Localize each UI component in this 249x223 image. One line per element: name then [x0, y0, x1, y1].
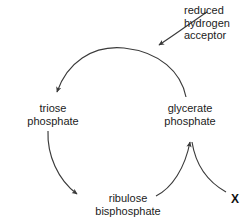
node-label-glycerate-phosphate: glycerate phosphate	[164, 102, 215, 127]
node-label-triose-phosphate: triose phosphate	[27, 102, 78, 127]
node-label-ribulose-bisphosphate: ribulose bisphosphate	[95, 192, 160, 217]
triose-phosphate-line-2: phosphate	[27, 115, 78, 128]
arrow-triose-to-ribulose	[48, 131, 77, 194]
triose-phosphate-line-1: triose	[27, 102, 78, 115]
calvin-cycle-diagram: reduced hydrogen acceptor triose phospha…	[0, 0, 249, 223]
arrow-glycerate-to-triose	[57, 48, 186, 97]
glycerate-phosphate-line-2: phosphate	[164, 115, 215, 128]
reduced-hydrogen-acceptor-line-2: hydrogen	[184, 17, 230, 30]
unknown-substance-marker-x: X	[231, 192, 239, 206]
ribulose-bisphosphate-line-2: bisphosphate	[95, 205, 160, 218]
ribulose-bisphosphate-line-1: ribulose	[95, 192, 160, 205]
reduced-hydrogen-acceptor-line-3: acceptor	[184, 29, 230, 42]
arrow-x-to-glycerate	[192, 142, 226, 192]
glycerate-phosphate-line-1: glycerate	[164, 102, 215, 115]
arrow-ribulose-to-glycerate	[156, 142, 190, 196]
node-label-reduced-hydrogen-acceptor: reduced hydrogen acceptor	[184, 4, 230, 42]
reduced-hydrogen-acceptor-line-1: reduced	[184, 4, 230, 17]
